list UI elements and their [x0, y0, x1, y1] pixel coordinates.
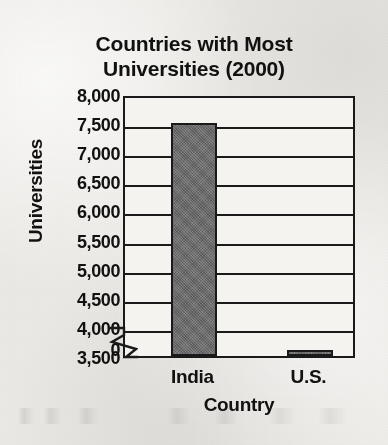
gridline — [125, 214, 353, 216]
x-tick-label: U.S. — [258, 366, 358, 388]
y-tick-label: 7,500 — [48, 116, 120, 134]
x-axis-title: Country — [123, 394, 355, 416]
scanned-chart-page: Countries with Most Universities (2000) … — [0, 0, 388, 445]
plot-area — [123, 96, 355, 358]
chart-ink-layer: Countries with Most Universities (2000) … — [0, 0, 388, 445]
y-tick-label: 6,000 — [48, 203, 120, 221]
gridline — [125, 127, 353, 129]
gridline — [125, 331, 353, 333]
gridline — [125, 244, 353, 246]
gridline — [125, 185, 353, 187]
gridline — [125, 273, 353, 275]
y-tick-label: 5,500 — [48, 233, 120, 251]
y-axis-tick-labels: 8,0007,5007,0006,5006,0005,5005,0004,500… — [44, 0, 120, 445]
gridline — [125, 156, 353, 158]
x-tick-label: India — [142, 366, 242, 388]
y-axis-break-icon — [108, 326, 138, 360]
bar-u-s — [287, 350, 333, 356]
bar-india — [171, 123, 217, 356]
y-tick-label: 8,000 — [48, 87, 120, 105]
y-tick-label: 4,500 — [48, 291, 120, 309]
y-tick-label: 5,000 — [48, 262, 120, 280]
y-tick-label: 6,500 — [48, 174, 120, 192]
gridline — [125, 302, 353, 304]
y-tick-label: 7,000 — [48, 145, 120, 163]
